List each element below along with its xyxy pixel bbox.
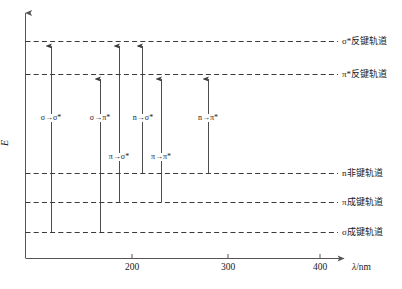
transition-label-n-to-sigma-star: n→σ* [132,114,154,122]
transition-label-n-to-pi-star: n→π* [197,114,219,122]
level-label-sigma-bonding: σ成键轨道 [342,228,383,237]
transition-arrows [52,46,209,232]
x-tick-200: 200 [125,263,139,273]
level-label-pi-star: π*反键轨道 [342,70,387,79]
transition-label-pi-to-sigma-star: π→σ* [108,153,130,161]
x-tick-300: 300 [221,263,235,273]
y-axis-title: E [0,140,10,146]
energy-level-diagram: E 200 300 400 λ/nm σ*反键轨道 π*反键轨道 n非键轨道 π… [0,0,402,289]
level-label-pi-bonding: π成键轨道 [342,198,383,207]
level-label-n-nonbonding: n非键轨道 [342,169,383,178]
transition-label-sigma-to-pi-star: σ→π* [89,114,111,122]
x-axis-title-unit: /nm [356,262,371,272]
transition-label-pi-to-pi-star: π→π* [150,153,172,161]
x-tick-400: 400 [313,263,327,273]
x-axis-title: λ/nm [352,263,371,273]
energy-level-lines [26,42,339,233]
transition-label-sigma-to-sigma-star: σ→σ* [40,114,63,122]
x-axis [26,254,345,259]
level-label-sigma-star: σ*反键轨道 [342,37,387,46]
